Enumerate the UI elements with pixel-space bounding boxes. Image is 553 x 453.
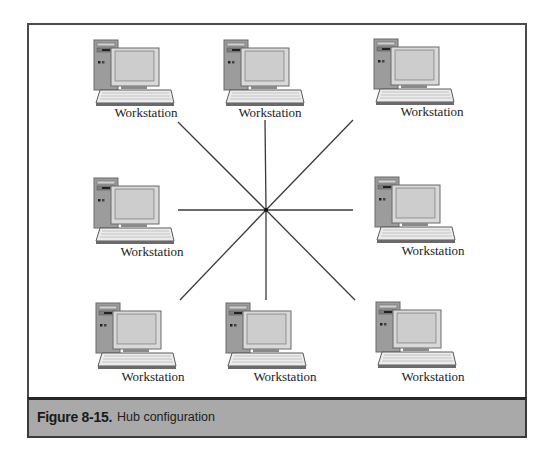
workstation-label: Workstation bbox=[120, 244, 183, 260]
workstation-label: Workstation bbox=[114, 105, 177, 121]
computer-icon bbox=[95, 302, 177, 370]
figure-title: Hub configuration bbox=[117, 410, 215, 424]
computer-icon bbox=[375, 301, 457, 369]
computer-icon bbox=[93, 39, 175, 107]
workstation-label: Workstation bbox=[238, 105, 301, 121]
computer-icon bbox=[223, 39, 305, 107]
workstation-label: Workstation bbox=[121, 369, 184, 385]
spoke-ne bbox=[266, 120, 353, 210]
workstation-label: Workstation bbox=[400, 104, 463, 120]
computer-icon bbox=[373, 38, 455, 106]
workstation-top-left bbox=[93, 39, 175, 107]
workstation-label: Workstation bbox=[401, 369, 464, 385]
computer-icon bbox=[225, 302, 307, 370]
workstation-bottom-right bbox=[375, 301, 457, 369]
hub-center bbox=[264, 208, 268, 212]
workstation-top-right bbox=[373, 38, 455, 106]
computer-icon bbox=[93, 177, 175, 245]
workstation-bottom-left bbox=[95, 302, 177, 370]
computer-icon bbox=[374, 176, 456, 244]
spoke-n bbox=[265, 120, 266, 210]
figure-number: Figure 8-15. bbox=[37, 409, 112, 425]
spoke-nw bbox=[178, 122, 266, 210]
spoke-sw bbox=[180, 210, 266, 300]
workstation-label: Workstation bbox=[253, 369, 316, 385]
spoke-se bbox=[266, 210, 355, 300]
workstation-bottom-center bbox=[225, 302, 307, 370]
figure-caption-bar: Figure 8-15. Hub configuration bbox=[27, 397, 527, 438]
workstation-middle-left bbox=[93, 177, 175, 245]
workstation-middle-right bbox=[374, 176, 456, 244]
workstation-top-center bbox=[223, 39, 305, 107]
workstation-label: Workstation bbox=[401, 243, 464, 259]
